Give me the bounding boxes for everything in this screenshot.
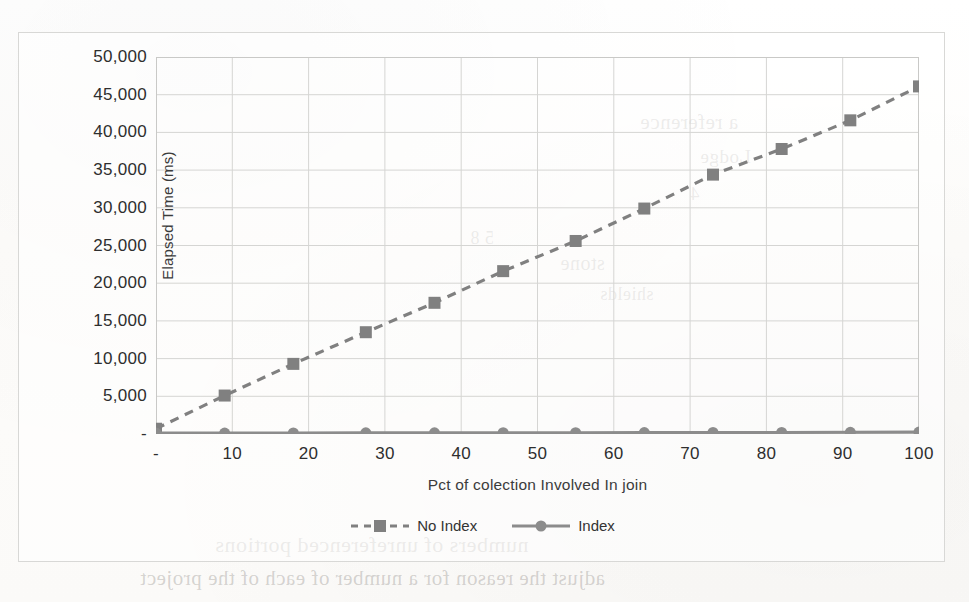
legend-item-label: Index bbox=[578, 517, 615, 534]
data-point-marker bbox=[497, 265, 509, 277]
x-axis-title: Pct of colection Involved In join bbox=[156, 476, 919, 494]
y-axis-tick-label: - bbox=[141, 424, 147, 444]
data-point-marker bbox=[844, 114, 856, 126]
data-point-marker bbox=[639, 427, 650, 434]
y-axis-title: Elapsed Time (ms) bbox=[159, 101, 176, 331]
data-point-marker bbox=[776, 427, 787, 434]
data-point-marker bbox=[570, 235, 582, 247]
x-axis-tick-label: 40 bbox=[451, 444, 471, 464]
x-axis-tick-label: 90 bbox=[833, 444, 853, 464]
legend-item-no-index[interactable]: No Index bbox=[350, 517, 477, 534]
data-point-marker bbox=[287, 358, 299, 370]
data-point-marker bbox=[570, 427, 581, 434]
gridlines bbox=[156, 57, 919, 434]
y-axis-tick-label: 25,000 bbox=[93, 236, 147, 256]
plot-area: Elapsed Time (ms) -5,00010,00015,00020,0… bbox=[156, 57, 919, 434]
legend-item-index[interactable]: Index bbox=[511, 517, 615, 534]
y-axis-tick-label: 30,000 bbox=[93, 198, 147, 218]
y-axis-tick-label: 50,000 bbox=[93, 47, 147, 67]
data-point-marker bbox=[360, 326, 372, 338]
y-axis-tick-label: 45,000 bbox=[93, 85, 147, 105]
data-point-marker bbox=[776, 143, 788, 155]
x-axis-tick-label: 20 bbox=[299, 444, 319, 464]
x-axis-tick-label: 70 bbox=[680, 444, 700, 464]
bleedthrough-line: adjust the reason for a number of each o… bbox=[140, 566, 605, 591]
data-point-marker bbox=[845, 427, 856, 434]
data-point-marker bbox=[219, 428, 230, 434]
chart-legend: No IndexIndex bbox=[19, 517, 946, 534]
x-axis-tick-label: 100 bbox=[904, 444, 933, 464]
data-point-marker bbox=[707, 169, 719, 181]
data-point-marker bbox=[638, 203, 650, 215]
x-axis-tick-label: 80 bbox=[757, 444, 777, 464]
x-axis-tick-label: 10 bbox=[223, 444, 243, 464]
data-point-marker bbox=[429, 427, 440, 434]
data-point-marker bbox=[219, 390, 231, 402]
data-point-marker bbox=[360, 427, 371, 434]
data-point-marker bbox=[498, 427, 509, 434]
chart-frame: Elapsed Time (ms) -5,00010,00015,00020,0… bbox=[18, 32, 945, 562]
y-axis-tick-label: 10,000 bbox=[93, 349, 147, 369]
data-point-marker bbox=[288, 427, 299, 434]
plot-svg bbox=[156, 57, 919, 434]
y-axis-tick-label: 15,000 bbox=[93, 311, 147, 331]
legend-dashed-square-icon bbox=[350, 518, 410, 534]
legend-item-label: No Index bbox=[417, 517, 477, 534]
y-axis-tick-label: 35,000 bbox=[93, 160, 147, 180]
y-axis-tick-label: 20,000 bbox=[93, 273, 147, 293]
x-axis-tick-label: - bbox=[153, 444, 159, 464]
data-point-marker bbox=[913, 80, 919, 92]
data-point-marker bbox=[428, 297, 440, 309]
y-axis-tick-label: 5,000 bbox=[103, 386, 147, 406]
data-point-marker bbox=[707, 427, 718, 434]
data-point-marker bbox=[914, 427, 920, 434]
y-axis-tick-label: 40,000 bbox=[93, 122, 147, 142]
legend-solid-circle-icon bbox=[511, 518, 571, 534]
x-axis-tick-label: 30 bbox=[375, 444, 395, 464]
x-axis-tick-label: 60 bbox=[604, 444, 624, 464]
x-axis-tick-label: 50 bbox=[528, 444, 548, 464]
